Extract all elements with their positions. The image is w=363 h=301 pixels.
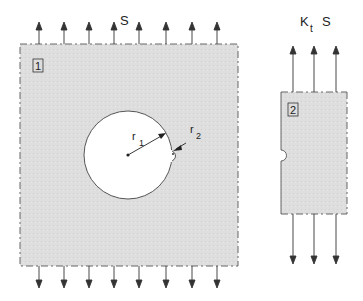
plate-2: 2 K t S	[281, 14, 347, 264]
plate-2-id-label: 2	[290, 104, 296, 116]
r2-center-dot	[172, 153, 174, 155]
kt-label: K	[300, 14, 309, 29]
r1-subscript: 1	[139, 138, 144, 148]
plate-1-load-label: S	[120, 13, 129, 28]
r2-subscript: 2	[196, 131, 201, 141]
plate-1: 1 S r 1 r 2	[20, 13, 238, 288]
plate-2-top-arrows	[290, 46, 339, 92]
plate-1-id-label: 1	[35, 60, 41, 72]
plate-2-bottom-arrows	[290, 214, 339, 264]
kt-s-label: S	[322, 14, 331, 29]
r2-label: r	[190, 123, 194, 135]
kt-subscript: t	[310, 23, 313, 34]
notch-cover	[166, 150, 172, 162]
plate-1-bottom-arrows	[36, 266, 220, 288]
stress-concentration-diagram: 1 S r 1 r 2	[0, 0, 363, 301]
r1-label: r	[132, 130, 136, 142]
